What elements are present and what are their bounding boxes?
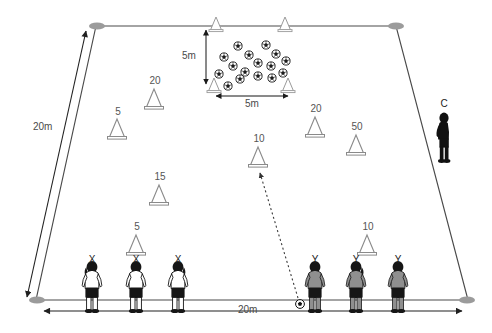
cone-10-lower-right — [358, 235, 377, 255]
cone-5-lower-left — [127, 235, 146, 255]
player-y-1 — [305, 261, 325, 313]
ball-cluster — [215, 41, 290, 90]
ball — [229, 62, 237, 70]
dimension-line-height — [27, 31, 86, 297]
grid-cone-bottom-left — [207, 78, 221, 93]
corner-marker-top-left — [89, 22, 105, 29]
drill-diagram: 20m 20m 5m 5m 20 5 20 50 10 15 5 10 X X … — [0, 0, 492, 333]
ball — [234, 42, 242, 50]
cone-label-20-upper-right: 20 — [309, 104, 323, 114]
cone-label-10-center: 10 — [252, 134, 266, 144]
player-label-y-2: Y — [350, 255, 362, 265]
ball — [245, 51, 253, 59]
player-x-2 — [126, 261, 146, 313]
player-label-y-1: Y — [309, 255, 321, 265]
player-y-3 — [388, 261, 408, 313]
field-graphics — [0, 0, 492, 333]
coach-figure — [436, 113, 450, 163]
cone-label-5-left: 5 — [112, 107, 124, 117]
ball — [254, 59, 262, 67]
dimension-label-width: 20m — [238, 305, 257, 315]
player-label-x-1: X — [86, 255, 98, 265]
ball — [282, 57, 290, 65]
coach-label: C — [438, 99, 450, 109]
cone-label-20-upper-left: 20 — [148, 76, 162, 86]
player-x-3 — [168, 261, 188, 313]
player-x-1 — [82, 261, 102, 313]
pass-direction-arrow — [260, 173, 298, 298]
corner-marker-bottom-right — [459, 296, 475, 303]
player-label-x-2: X — [130, 255, 142, 265]
corner-marker-bottom-left — [29, 296, 45, 303]
cone-label-50-right: 50 — [350, 122, 364, 132]
cone-label-10-lower-right: 10 — [361, 222, 375, 232]
grid-cone-top-right — [278, 17, 292, 32]
cone-20-upper-right — [306, 117, 325, 137]
player-label-x-3: X — [172, 255, 184, 265]
ball — [236, 75, 244, 83]
cone-5-left — [108, 119, 127, 139]
ball — [262, 41, 270, 49]
grid-cone-top-left — [209, 17, 223, 32]
ball — [224, 82, 232, 90]
cone-20-upper-left — [145, 89, 164, 109]
grid-cone-bottom-right — [281, 78, 295, 93]
cone-label-5-lower-left: 5 — [131, 222, 143, 232]
ball — [215, 70, 223, 78]
player-label-y-3: Y — [392, 255, 404, 265]
cone-label-15-left: 15 — [153, 172, 167, 182]
loose-ball — [296, 300, 305, 309]
cone-15-left — [150, 185, 169, 205]
ball — [272, 50, 280, 58]
dimension-label-grid-width: 5m — [245, 99, 259, 109]
ball — [254, 72, 262, 80]
dimension-label-grid-height: 5m — [182, 51, 196, 61]
corner-marker-top-right — [388, 22, 404, 29]
player-y-2 — [346, 261, 366, 313]
ball — [279, 69, 287, 77]
ball — [241, 68, 249, 76]
cone-50-right — [347, 135, 366, 155]
ball — [268, 74, 276, 82]
ball — [220, 53, 228, 61]
dimension-label-height: 20m — [33, 122, 52, 132]
cone-10-center — [249, 147, 268, 167]
ball — [267, 62, 275, 70]
